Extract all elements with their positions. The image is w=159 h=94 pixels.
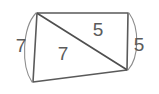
geometry-figure: 7 5 5 7: [0, 0, 159, 94]
diagonal-line: [38, 14, 127, 70]
label-left-side: 7: [16, 35, 27, 56]
label-upper-triangle: 5: [93, 19, 104, 40]
geometry-canvas: 7 5 5 7: [0, 0, 159, 94]
label-right-side: 5: [134, 34, 145, 55]
quadrilateral-outline: [33, 13, 128, 82]
label-lower-triangle: 7: [58, 43, 69, 64]
